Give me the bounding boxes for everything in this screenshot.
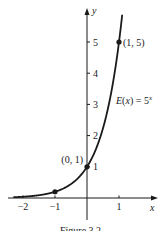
function-curve [13, 15, 122, 197]
figure-caption: Figure 3.2 [60, 225, 101, 231]
point-label: (1, 5) [123, 37, 145, 49]
point-label: (0, 1) [61, 154, 83, 166]
x-tick-label: −2 [18, 201, 29, 212]
x-axis-label: x [149, 202, 155, 213]
x-tick-label: 1 [117, 201, 122, 212]
y-tick-label: 2 [93, 130, 98, 141]
x-axis-arrow [151, 196, 158, 201]
data-point [116, 39, 121, 44]
data-point [84, 164, 89, 169]
y-tick-label: 5 [93, 37, 98, 48]
y-axis-label: y [91, 5, 97, 16]
data-point [52, 189, 57, 194]
exponential-chart: x y −2−1112345 (0, 1)(1, 5) E(x) = 5x Fi… [0, 0, 164, 231]
y-tick-label: 1 [93, 161, 98, 172]
x-tick-label: −1 [50, 201, 61, 212]
y-tick-label: 4 [93, 68, 98, 79]
y-axis-arrow [85, 8, 90, 15]
points: (0, 1)(1, 5) [52, 37, 144, 195]
function-label: E(x) = 5x [115, 94, 153, 107]
y-tick-label: 3 [93, 99, 98, 110]
